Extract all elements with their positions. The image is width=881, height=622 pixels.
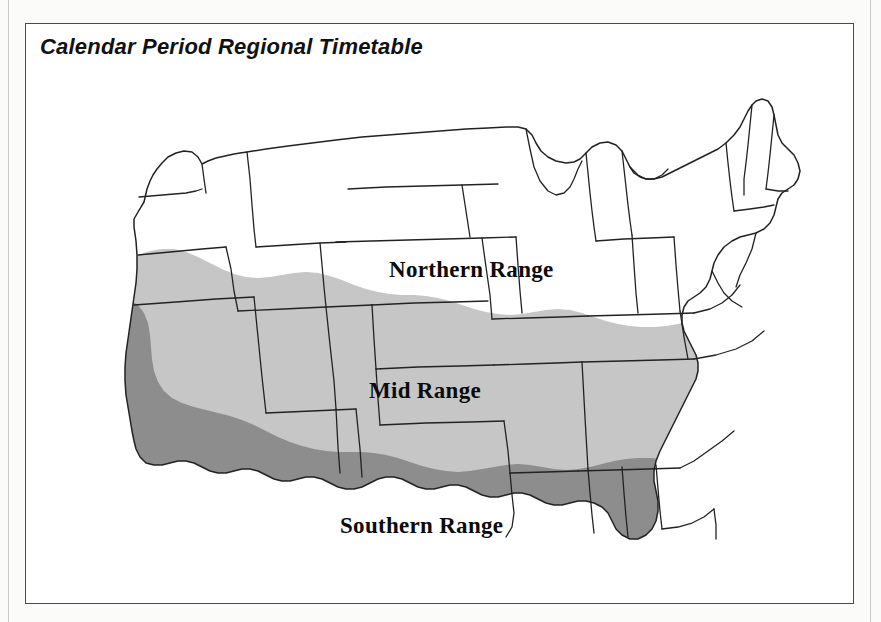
region-label-northern: Northern Range — [389, 257, 554, 283]
map-svg — [26, 69, 855, 589]
region-label-mid: Mid Range — [369, 378, 481, 404]
figure-panel: Calendar Period Regional Timetable — [25, 23, 854, 604]
map-figure-page: Calendar Period Regional Timetable — [0, 0, 881, 622]
us-region-map: Northern Range Mid Range Southern Range — [26, 69, 855, 589]
page-title: Calendar Period Regional Timetable — [40, 34, 423, 60]
scan-rule-left — [8, 0, 9, 622]
scan-rule-right — [870, 0, 871, 622]
region-label-southern: Southern Range — [340, 513, 503, 539]
